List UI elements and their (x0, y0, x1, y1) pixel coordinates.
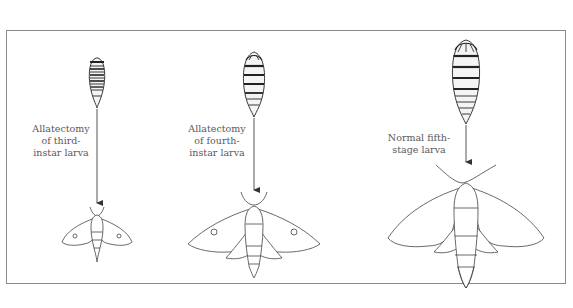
moth-small (62, 207, 132, 262)
larva-medium (243, 52, 264, 117)
illustration (0, 0, 573, 308)
moth-large (388, 165, 544, 288)
larva-small (89, 58, 105, 108)
moth-medium (188, 192, 320, 278)
larva-large (452, 40, 479, 124)
